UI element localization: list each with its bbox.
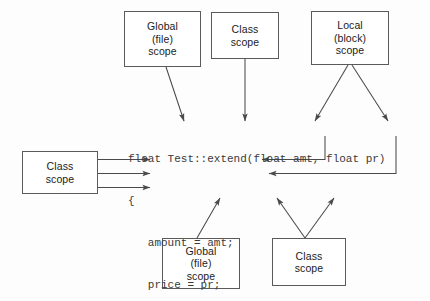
box-class-scope-left: Class scope bbox=[22, 151, 98, 194]
arrow-local-top-to-amt-param bbox=[315, 65, 348, 121]
box-line: Class bbox=[232, 23, 259, 36]
box-line: scope bbox=[148, 45, 177, 58]
code-block: float Test::extend(float amt, float pr) … bbox=[128, 124, 385, 301]
code-line-price: price = pr; bbox=[128, 278, 385, 292]
arrow-local-top-to-pr-param bbox=[352, 65, 388, 121]
code-line-signature: float Test::extend(float amt, float pr) bbox=[128, 152, 385, 166]
box-line: Global bbox=[147, 20, 178, 33]
box-line: scope bbox=[336, 44, 365, 57]
box-global-file-scope-top: Global (file) scope bbox=[124, 11, 201, 67]
code-line-open-brace: { bbox=[128, 194, 385, 208]
arrow-global-top-to-float bbox=[166, 67, 184, 121]
box-line: Local bbox=[337, 19, 363, 32]
scope-diagram: Global (file) scope Class scope Local (b… bbox=[0, 0, 430, 301]
box-line: (block) bbox=[334, 32, 366, 45]
box-line: (file) bbox=[152, 33, 173, 46]
box-line: scope bbox=[46, 173, 75, 186]
box-line: Class bbox=[47, 160, 74, 173]
box-local-block-scope-top: Local (block) scope bbox=[311, 11, 389, 65]
box-line: scope bbox=[231, 36, 260, 49]
code-line-amount: amount = amt; bbox=[128, 236, 385, 250]
box-class-scope-top: Class scope bbox=[211, 12, 279, 59]
